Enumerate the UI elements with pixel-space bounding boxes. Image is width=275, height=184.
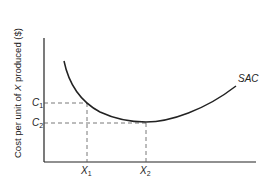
- sac-curve: [64, 61, 236, 122]
- x2-label: X2: [139, 165, 151, 177]
- c1-label: C1: [32, 97, 43, 109]
- c2-label: C2: [32, 117, 43, 129]
- x1-label: X1: [80, 165, 92, 177]
- y-axis-title: Cost per unit of X produced ($): [12, 28, 23, 158]
- sac-diagram: SAC C1 C2 X1 X2 Cost per unit of X produ…: [0, 0, 275, 184]
- sac-label: SAC: [238, 73, 259, 84]
